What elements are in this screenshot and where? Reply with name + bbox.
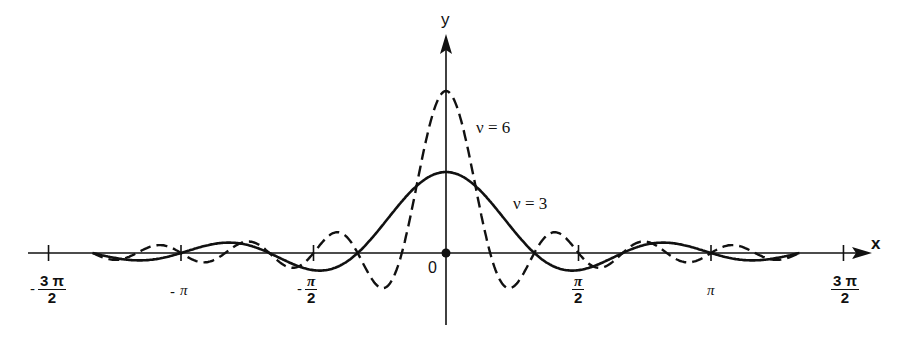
tick-label-3pi-2: 3 π 2 — [831, 273, 859, 306]
tick-minus-sign: - — [297, 280, 302, 297]
tick-label-pi: π — [707, 282, 715, 299]
curve-label-nu-6: ν = 6 — [476, 118, 510, 138]
tick-label-pi-2: π 2 — [572, 273, 584, 306]
curve-label-nu-3: ν = 3 — [513, 194, 547, 214]
tick-label-neg-pi-2: π 2 — [305, 273, 317, 306]
tick-minus-sign: - — [30, 280, 35, 297]
tick-label-neg-3pi-2: 3 π 2 — [38, 273, 66, 306]
tick-minus-sign: - — [170, 283, 175, 300]
tick-label-neg-pi: π — [180, 282, 188, 299]
origin-label: 0 — [428, 259, 437, 277]
y-axis-label: y — [441, 10, 450, 30]
plot-area — [0, 0, 909, 338]
origin-dot — [442, 249, 451, 258]
x-axis-label: x — [871, 234, 880, 254]
